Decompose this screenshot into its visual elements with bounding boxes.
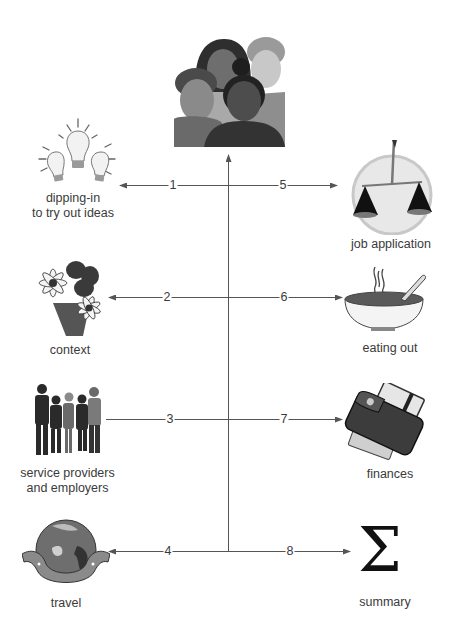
connector-number-8: 8	[286, 545, 295, 558]
connector-number-2: 2	[163, 291, 172, 304]
node-label-1: dipping-in to try out ideas	[12, 191, 134, 221]
balance-scales-icon	[350, 138, 435, 235]
lightbulbs-icon	[35, 117, 120, 187]
sigma-icon: Σ	[355, 520, 405, 580]
connector-number-3: 3	[166, 413, 175, 426]
connector-number-7: 7	[280, 413, 289, 426]
node-label-4: travel	[16, 596, 116, 611]
node-label-7: finances	[340, 467, 440, 482]
node-label-5: job application	[332, 237, 450, 252]
connector-number-5: 5	[279, 179, 288, 192]
flowers-icon	[28, 258, 110, 338]
wallet-icon	[342, 383, 427, 463]
globe-in-hands-icon	[22, 518, 110, 588]
soup-bowl-icon	[343, 265, 428, 335]
people-group-icon	[174, 37, 285, 147]
node-label-2: context	[20, 343, 120, 358]
node-label-6: eating out	[335, 341, 445, 356]
node-label-8: summary	[350, 595, 420, 610]
connector-number-6: 6	[280, 291, 289, 304]
connector-number-1: 1	[169, 179, 178, 192]
node-label-3: service providers and employers	[5, 466, 130, 496]
business-people-icon	[30, 383, 108, 461]
connector-number-4: 4	[164, 545, 173, 558]
